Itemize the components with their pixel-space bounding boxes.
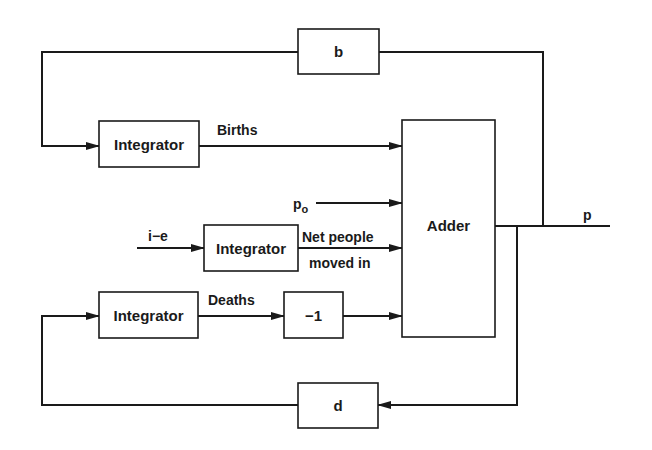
svg-text:Integrator: Integrator — [113, 307, 183, 324]
block-integrator-births: Integrator — [99, 121, 199, 167]
ie-label: i−e — [148, 228, 168, 244]
net-people-label: Net people — [302, 229, 374, 245]
block-d: d — [298, 383, 378, 428]
block-negate: −1 — [284, 292, 343, 338]
block-integrator-deaths: Integrator — [99, 292, 198, 338]
deaths-label: Deaths — [208, 292, 255, 308]
block-adder: Adder — [402, 120, 495, 337]
svg-text:−1: −1 — [305, 307, 322, 324]
svg-text:d: d — [333, 397, 342, 414]
svg-text:Adder: Adder — [427, 217, 471, 234]
p0-label: po — [293, 196, 309, 215]
population-block-diagram: b Integrator Integrator Integrator −1 Ad… — [0, 0, 652, 450]
births-label: Births — [217, 122, 258, 138]
output-p-label: p — [583, 207, 592, 223]
svg-text:Integrator: Integrator — [216, 240, 286, 257]
svg-text:Integrator: Integrator — [114, 136, 184, 153]
block-integrator-net-migration: Integrator — [204, 225, 298, 271]
svg-text:b: b — [334, 43, 343, 60]
block-b: b — [298, 29, 379, 74]
moved-in-label: moved in — [309, 255, 370, 271]
